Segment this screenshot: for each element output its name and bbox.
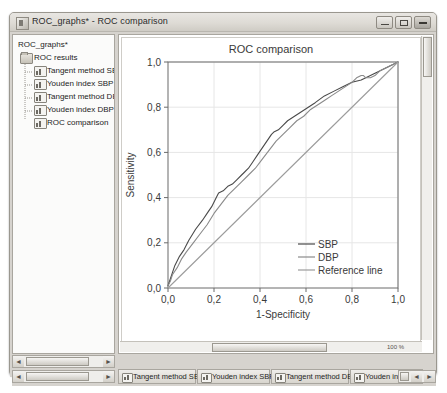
svg-text:0,0: 0,0: [147, 283, 161, 294]
sidebar-horizontal-scrollbar[interactable]: ◄ ►: [12, 355, 115, 368]
tree-item-label: Tangent method SBP: [47, 64, 115, 77]
tree-item-tangent-method-dbp[interactable]: Tangent method DBP: [13, 90, 114, 103]
scrollbar-thumb[interactable]: [26, 372, 89, 381]
scroll-left-icon[interactable]: ◄: [13, 356, 24, 367]
close-button[interactable]: [414, 16, 431, 29]
minimize-icon: [381, 24, 389, 25]
chart-node-icon: [34, 105, 47, 116]
roc-plot: 0,00,20,40,60,81,00,00,20,40,60,81,01-Sp…: [122, 38, 412, 338]
chart-node-icon: [354, 373, 365, 383]
chart-node-icon: [34, 92, 47, 103]
tab-label: Tangent method DBP: [286, 372, 357, 381]
scroll-right-icon[interactable]: ►: [103, 371, 114, 382]
tab-nav-scrollbar[interactable]: ◄ ►: [12, 370, 115, 383]
application-window: ROC_graphs* - ROC comparison ROC_graphs*: [9, 12, 437, 376]
tree-item-label: Youden index DBP: [47, 103, 114, 116]
chart-node-icon: [275, 373, 286, 383]
folder-icon: [20, 53, 33, 64]
scroll-left-icon[interactable]: ◄: [13, 371, 24, 382]
chart-node-icon: [122, 373, 133, 383]
svg-text:0,8: 0,8: [345, 294, 359, 305]
svg-text:0,4: 0,4: [147, 192, 161, 203]
tree-item-label: Tangent method DBP: [47, 90, 115, 103]
chart-vertical-scrollbar[interactable]: [421, 36, 432, 340]
tab-end-nav[interactable]: ◄ ►: [398, 370, 436, 383]
title-bar: ROC_graphs* - ROC comparison: [10, 13, 436, 32]
scrollbar-thumb[interactable]: [400, 372, 409, 381]
tab-label: Youden index SBP: [212, 372, 274, 381]
chart-node-icon: [34, 79, 47, 90]
svg-text:SBP: SBP: [318, 239, 338, 250]
svg-text:Reference line: Reference line: [318, 265, 383, 276]
chart-canvas: ROC comparison 0,00,20,40,60,81,00,00,20…: [121, 37, 421, 343]
tree-item-roc-results[interactable]: ROC results: [13, 51, 114, 64]
svg-text:1-Specificity: 1-Specificity: [256, 309, 310, 320]
svg-text:0,6: 0,6: [299, 294, 313, 305]
tab-tangent-method-dbp[interactable]: Tangent method DBP: [271, 369, 349, 384]
svg-text:0,8: 0,8: [147, 102, 161, 113]
client-area: ROC_graphs* ROC results Tangent method S…: [10, 32, 436, 377]
app-window-icon: [16, 17, 29, 30]
svg-text:DBP: DBP: [318, 252, 339, 263]
svg-text:0,6: 0,6: [147, 147, 161, 158]
tab-tangent-method-sbp[interactable]: Tangent method SBP: [118, 369, 196, 384]
scrollbar-thumb[interactable]: [423, 37, 432, 77]
chart-node-icon: [34, 66, 47, 77]
svg-text:0,0: 0,0: [161, 294, 175, 305]
tab-youden-index-sbp[interactable]: Youden index SBP: [197, 369, 270, 384]
svg-text:0,2: 0,2: [147, 237, 161, 248]
close-icon: [419, 22, 427, 24]
tree-item-roc-results-label: ROC results: [34, 51, 78, 64]
tree-item-tangent-method-sbp[interactable]: Tangent method SBP: [13, 64, 114, 77]
tab-strip: ◄ ► Tangent method SBP Youden index SBP …: [12, 369, 436, 386]
minimize-button[interactable]: [376, 16, 393, 29]
svg-text:1,0: 1,0: [391, 294, 405, 305]
chart-node-icon: [201, 373, 212, 383]
svg-text:0,4: 0,4: [253, 294, 267, 305]
chart-horizontal-scrollbar[interactable]: ◄ □ ▤ 100 %: [120, 341, 422, 352]
scroll-right-icon[interactable]: ►: [424, 371, 435, 382]
tree-item-roc-comparison[interactable]: ROC comparison: [13, 116, 114, 129]
zoom-level-label: 100 %: [387, 344, 404, 350]
navigation-tree[interactable]: ROC_graphs* ROC results Tangent method S…: [12, 34, 115, 354]
scroll-left-icon[interactable]: ◄: [411, 371, 422, 382]
maximize-button[interactable]: [395, 16, 412, 29]
svg-text:Sensitivity: Sensitivity: [125, 152, 136, 197]
tree-item-label: ROC comparison: [47, 116, 108, 129]
tree-item-youden-index-sbp[interactable]: Youden index SBP: [13, 77, 114, 90]
svg-text:0,2: 0,2: [207, 294, 221, 305]
tree-item-root[interactable]: ROC_graphs*: [13, 38, 114, 51]
scrollbar-thumb[interactable]: [26, 357, 89, 366]
svg-text:1,0: 1,0: [147, 57, 161, 68]
scrollbar-thumb[interactable]: [212, 343, 327, 352]
chart-node-icon: [34, 118, 47, 129]
tree-item-youden-index-dbp[interactable]: Youden index DBP: [13, 103, 114, 116]
tab-label: Tangent method SBP: [133, 372, 204, 381]
chart-panel: ROC comparison 0,00,20,40,60,81,00,00,20…: [118, 34, 434, 354]
window-title: ROC_graphs* - ROC comparison: [32, 16, 168, 26]
maximize-icon: [400, 20, 408, 26]
tree-item-root-label: ROC_graphs*: [18, 38, 68, 51]
tree-item-label: Youden index SBP: [47, 77, 113, 90]
scroll-right-icon[interactable]: ►: [103, 356, 114, 367]
